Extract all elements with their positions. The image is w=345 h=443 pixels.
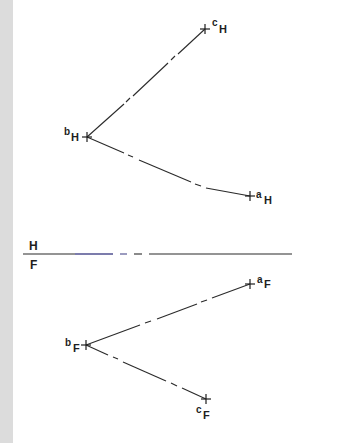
point-label-c: c: [196, 404, 202, 415]
point-subscript-F: F: [73, 342, 80, 354]
point-cH: c H: [200, 17, 227, 35]
cross-marker-icon: [201, 394, 211, 404]
line-bF-aF: [86, 284, 250, 345]
frontal-view: a F b F c F: [65, 274, 271, 421]
point-label-b: b: [64, 126, 70, 137]
horizontal-view: c H b H a H: [64, 17, 272, 206]
point-label-b: b: [65, 337, 71, 348]
fold-label-F: F: [30, 258, 37, 272]
point-subscript-F: F: [264, 278, 271, 290]
point-label-a: a: [256, 189, 262, 200]
cross-marker-icon: [245, 191, 255, 201]
point-aH: a H: [245, 189, 272, 206]
fold-label-H: H: [29, 239, 38, 253]
point-subscript-F: F: [203, 409, 210, 421]
point-subscript-H: H: [264, 194, 272, 206]
point-label-c: c: [212, 17, 218, 28]
line-bH-aH: [87, 137, 250, 196]
point-subscript-H: H: [71, 131, 79, 143]
cross-marker-icon: [245, 279, 255, 289]
point-label-a: a: [257, 274, 263, 285]
line-bH-cH: [87, 29, 205, 137]
diagram-canvas: c H b H a H: [0, 0, 345, 443]
fold-line-HF: H F: [23, 239, 292, 272]
point-bH: b H: [64, 126, 92, 143]
point-bF: b F: [65, 337, 91, 354]
line-bF-cF: [86, 345, 206, 399]
cross-marker-icon: [81, 340, 91, 350]
point-subscript-H: H: [219, 23, 227, 35]
point-aF: a F: [245, 274, 271, 290]
projection-drawing: c H b H a H: [0, 0, 345, 443]
